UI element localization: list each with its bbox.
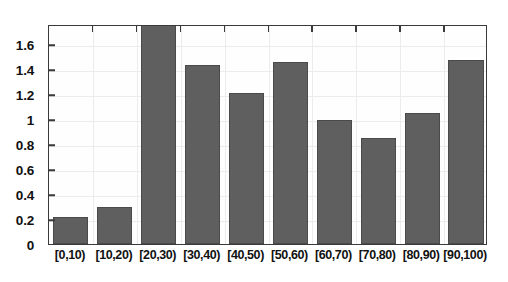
x-tick-label: [0,10) (48, 248, 92, 262)
bar (229, 93, 264, 244)
x-tick-label: [50,60) (268, 248, 312, 262)
x-tick-label: [40,50) (224, 248, 268, 262)
bar (448, 60, 483, 244)
y-tick-mark (48, 219, 55, 221)
y-tick-label: 1.6 (16, 38, 34, 53)
y-tick-mark (48, 169, 55, 171)
y-tick-mark (48, 194, 55, 196)
x-tick-label: [80,90) (399, 248, 443, 262)
bar-chart-figure: 00.20.40.60.811.21.41.6 [0,10)[10,20)[20… (0, 0, 508, 282)
bar (317, 120, 352, 244)
y-tick-mark (48, 144, 55, 146)
y-tick-mark (48, 119, 55, 121)
y-tick-label: 0.2 (16, 213, 34, 228)
bar (185, 65, 220, 244)
x-tick-mark (180, 25, 182, 32)
x-tick-label: [30,40) (180, 248, 224, 262)
x-tick-mark (355, 25, 357, 32)
y-tick-label: 1.4 (16, 63, 34, 78)
x-tick-label: [60,70) (311, 248, 355, 262)
y-axis: 00.20.40.60.811.21.41.6 (0, 0, 44, 282)
bar (273, 62, 308, 245)
plot-area (48, 25, 487, 245)
x-tick-mark (136, 25, 138, 32)
bar (141, 25, 176, 244)
x-tick-label: [70,80) (355, 248, 399, 262)
bar (361, 138, 396, 244)
y-tick-label: 1 (27, 113, 34, 128)
x-tick-mark (92, 25, 94, 32)
y-tick-mark (48, 44, 55, 46)
x-tick-mark (311, 25, 313, 32)
x-tick-label: [90,100) (443, 248, 487, 262)
x-axis: [0,10)[10,20)[20,30)[30,40)[40,50)[50,60… (48, 248, 487, 274)
x-tick-mark (268, 25, 270, 32)
x-tick-mark (224, 25, 226, 32)
bar (405, 113, 440, 244)
y-tick-label: 0.6 (16, 163, 34, 178)
bar (53, 217, 88, 245)
bar-series (49, 26, 486, 244)
y-tick-label: 0 (27, 238, 34, 253)
y-tick-mark (48, 94, 55, 96)
x-tick-label: [10,20) (92, 248, 136, 262)
x-tick-mark (399, 25, 401, 32)
bar (97, 207, 132, 245)
y-tick-mark (48, 69, 55, 71)
y-tick-label: 1.2 (16, 88, 34, 103)
x-tick-label: [20,30) (136, 248, 180, 262)
x-tick-mark (443, 25, 445, 32)
y-tick-label: 0.4 (16, 188, 34, 203)
y-tick-label: 0.8 (16, 138, 34, 153)
